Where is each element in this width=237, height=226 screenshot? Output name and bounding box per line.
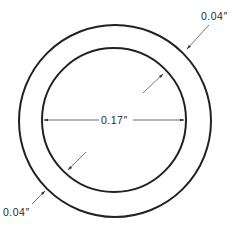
thickness-label-top-right: 0.04″ [201, 11, 228, 22]
thickness-arrow-outer-top-right [187, 25, 209, 49]
thickness-arrow-outer-bottom-left [32, 191, 45, 204]
ring-diagram [0, 0, 237, 226]
thickness-arrow-inner-top-right [143, 74, 163, 93]
thickness-arrow-inner-bottom-left [68, 152, 86, 170]
diameter-label: 0.17″ [100, 115, 129, 126]
thickness-label-bottom-left: 0.04″ [3, 207, 30, 218]
